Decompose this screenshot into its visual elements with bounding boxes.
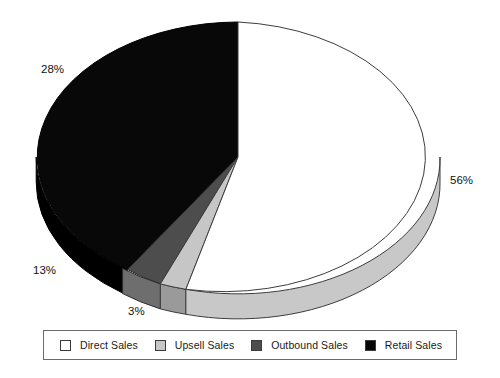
legend-item-direct-sales[interactable]: Direct Sales (60, 339, 138, 351)
legend-label-outbound-sales: Outbound Sales (271, 339, 348, 351)
legend-label-direct-sales: Direct Sales (80, 339, 138, 351)
data-label-outbound-sales: 13% (33, 264, 56, 276)
legend-label-upsell-sales: Upsell Sales (175, 339, 235, 351)
pie-top-face (37, 22, 425, 292)
legend-swatch-upsell-sales (155, 340, 166, 351)
pie-chart-canvas: 28% 56% 13% 3% (0, 0, 500, 378)
legend-item-retail-sales[interactable]: Retail Sales (365, 339, 442, 351)
data-label-retail-sales: 28% (41, 63, 64, 75)
legend-item-outbound-sales[interactable]: Outbound Sales (251, 339, 348, 351)
legend-swatch-retail-sales (365, 340, 376, 351)
pie-chart-figure: 28% 56% 13% 3% Direct Sales Upsell Sales… (0, 0, 500, 378)
legend-swatch-outbound-sales (251, 340, 262, 351)
legend-label-retail-sales: Retail Sales (385, 339, 442, 351)
legend-swatch-direct-sales (60, 340, 71, 351)
data-label-upsell-sales: 3% (128, 305, 145, 317)
data-label-direct-sales: 56% (450, 174, 473, 186)
chart-legend: Direct Sales Upsell Sales Outbound Sales… (43, 330, 457, 360)
legend-item-upsell-sales[interactable]: Upsell Sales (155, 339, 235, 351)
